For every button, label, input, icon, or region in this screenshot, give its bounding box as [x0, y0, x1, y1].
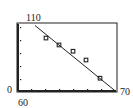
data-point	[84, 58, 88, 62]
plot-area	[0, 0, 133, 108]
axes	[18, 24, 116, 91]
plot-frame	[17, 23, 117, 92]
regression-line	[35, 26, 115, 91]
axis-ticks	[20, 27, 102, 90]
data-point	[44, 36, 48, 40]
data-point	[71, 49, 75, 53]
